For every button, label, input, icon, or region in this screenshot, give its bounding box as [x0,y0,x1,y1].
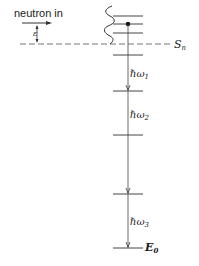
transition-label-2: ℏω2 [130,109,150,122]
epsilon-label: ε [33,29,37,38]
level-scheme-diagram: neutron in ε Sn ℏω1 ℏω2 ℏω3 [0,0,199,266]
neutron-in-label: neutron in [14,7,63,19]
resonance-wave-icon [104,6,114,44]
transition-label-3: ℏω3 [130,216,150,229]
neutron-arrow [22,21,52,25]
transition-label-1: ℏω1 [130,68,149,81]
separation-energy-label: Sn [174,38,187,52]
ground-state-label: E0 [144,241,158,255]
